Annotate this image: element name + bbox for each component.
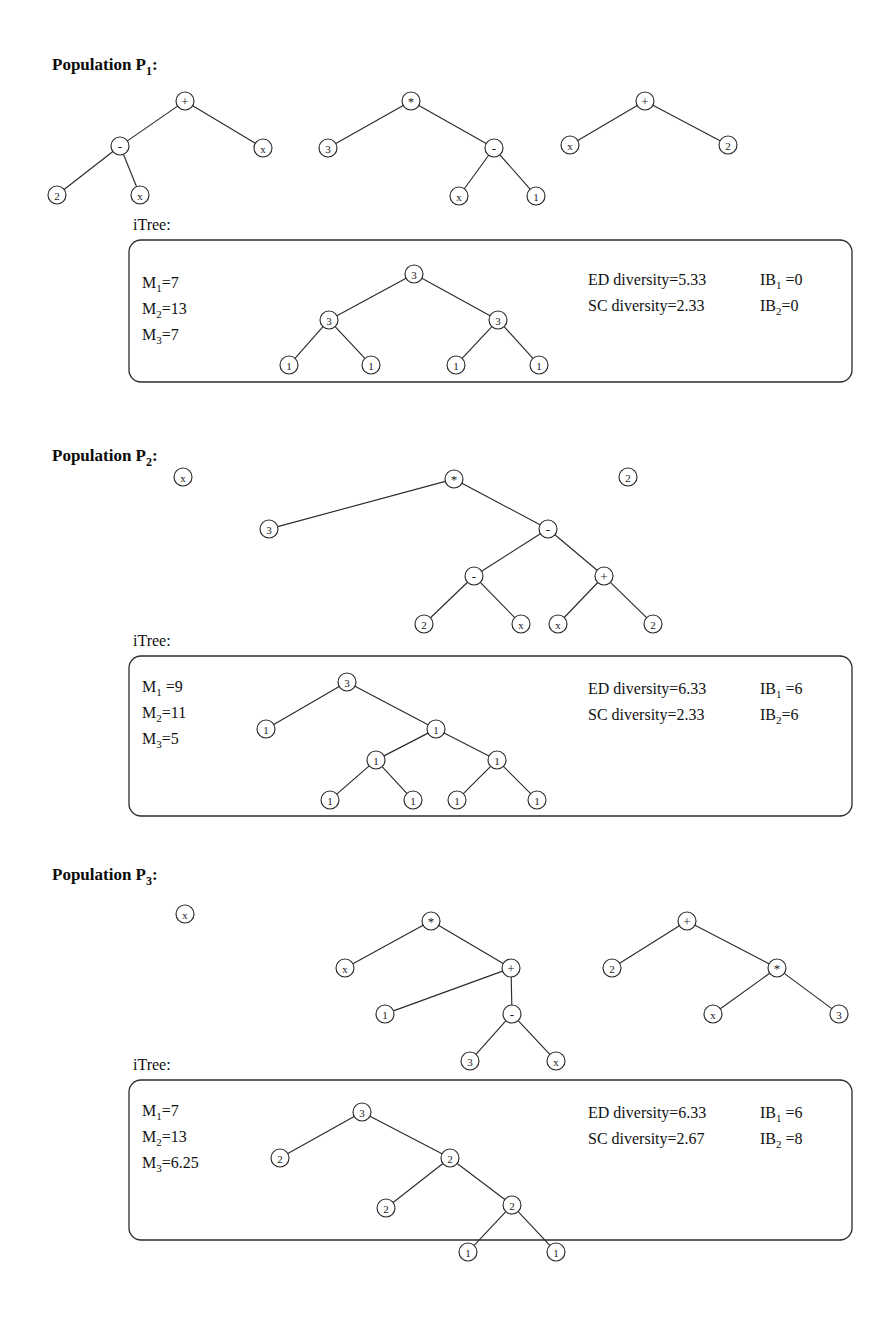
tree-node: 2 <box>441 1149 459 1167</box>
node-label: - <box>492 141 496 156</box>
tree-node: 3 <box>260 520 278 538</box>
p1-metric-m1: M1=7 <box>142 274 179 294</box>
tree-node: x <box>704 1005 722 1023</box>
tree-edge <box>784 973 832 1008</box>
figure-root: Population P1:+-x2x*3-x1+x2iTree:M1=7M2=… <box>0 0 896 1333</box>
tree-node: x <box>547 1052 565 1070</box>
node-label: 3 <box>836 1009 842 1021</box>
tree-edge <box>504 327 533 359</box>
p2-metric-ib2: IB2=6 <box>760 706 799 726</box>
tree-node: 3 <box>405 265 423 283</box>
tree-node: 2 <box>619 468 637 486</box>
tree-node: 1 <box>530 356 548 374</box>
node-label: x <box>137 190 143 202</box>
tree-edge <box>653 105 720 141</box>
p3-metric-m1: M1=7 <box>142 1102 179 1122</box>
node-label: 2 <box>421 619 427 631</box>
population-p3-program-3: +2*x3 <box>603 912 848 1023</box>
tree-edge <box>384 733 428 756</box>
node-label: 1 <box>263 724 269 736</box>
node-label: 3 <box>326 315 332 327</box>
p2-metric-m1: M1 =9 <box>142 678 183 698</box>
tree-node: 1 <box>447 356 465 374</box>
tree-node: 1 <box>547 1243 565 1261</box>
tree-edge <box>336 105 403 143</box>
node-label: 2 <box>383 1203 389 1215</box>
population-p1-program-3: +x2 <box>561 92 737 154</box>
p2-metric-ib1: IB1 =6 <box>760 680 803 700</box>
tree-node: + <box>502 959 520 977</box>
node-label: * <box>451 472 458 487</box>
p3-metric-ed-diversity: ED diversity=6.33 <box>588 1104 706 1122</box>
p2-metric-m3: M3=5 <box>142 730 179 750</box>
tree-edge <box>439 926 503 964</box>
tree-edge <box>555 535 597 570</box>
node-label: + <box>181 94 188 109</box>
population-section-p2: Population P2:x*3--+2xx22iTree:M1 =9M2=1… <box>52 446 852 816</box>
node-label: 1 <box>286 360 292 372</box>
itree-box-p2 <box>129 656 852 816</box>
tree-node: + <box>636 92 654 110</box>
node-label: 1 <box>454 795 460 807</box>
tree-edge <box>476 1021 506 1055</box>
itree-caption-p3: iTree: <box>133 1056 171 1073</box>
p2-metric-m2: M2=11 <box>142 704 186 724</box>
node-label: - <box>472 569 476 584</box>
population-p1-program-1: +-x2x <box>48 92 272 204</box>
node-label: * <box>774 961 781 976</box>
node-label: 1 <box>410 795 416 807</box>
tree-edge <box>422 278 490 315</box>
node-label: x <box>553 1056 559 1068</box>
tree-node: 1 <box>257 720 275 738</box>
tree-edge <box>464 155 488 188</box>
tree-edge <box>123 154 136 186</box>
node-label: 1 <box>553 1247 559 1259</box>
p1-metric-m3: M3=7 <box>142 326 179 346</box>
tree-node: * <box>445 470 463 488</box>
population-p2-program-2: *3--+2xx2 <box>260 470 662 633</box>
node-label: 3 <box>467 1056 473 1068</box>
itree-tree-p3: 3222211 <box>271 1103 565 1261</box>
tree-node: 1 <box>527 187 545 205</box>
tree-edge <box>274 687 339 725</box>
node-label: 1 <box>536 360 542 372</box>
itree-caption-p1: iTree: <box>133 216 171 233</box>
node-label: * <box>428 914 435 929</box>
tree-node: 2 <box>271 1149 289 1167</box>
population-p3-program-1: x <box>176 905 194 923</box>
p3-metric-sc-diversity: SC diversity=2.67 <box>588 1130 705 1148</box>
population-section-p1: Population P1:+-x2x*3-x1+x2iTree:M1=7M2=… <box>48 55 852 382</box>
tree-node: 2 <box>503 1196 521 1214</box>
tree-node: 1 <box>448 791 466 809</box>
node-label: 1 <box>465 1247 471 1259</box>
population-p3-program-2: *x+1-3x <box>336 912 565 1070</box>
tree-edge <box>393 971 502 1011</box>
tree-edge <box>419 105 486 143</box>
tree-edge <box>335 327 365 359</box>
node-label: x <box>567 140 573 152</box>
node-label: 3 <box>344 677 350 689</box>
tree-edge <box>370 1116 442 1154</box>
tree-edge <box>518 1021 550 1055</box>
itree-box-p3 <box>129 1080 852 1240</box>
node-label: 2 <box>54 190 60 202</box>
node-label: + <box>507 961 514 976</box>
tree-node: - <box>485 139 503 157</box>
tree-node: x <box>131 186 149 204</box>
tree-node: 1 <box>280 356 298 374</box>
tree-edge <box>337 278 406 315</box>
tree-node: - <box>503 1005 521 1023</box>
node-label: 2 <box>625 472 631 484</box>
node-label: 3 <box>411 269 417 281</box>
tree-edge <box>193 106 256 144</box>
tree-node: * <box>422 912 440 930</box>
tree-node: 2 <box>644 615 662 633</box>
node-label: x <box>180 472 186 484</box>
population-heading-p2: Population P2: <box>52 446 158 469</box>
node-label: - <box>510 1007 514 1022</box>
tree-node: 1 <box>376 1005 394 1023</box>
tree-node: 1 <box>488 751 506 769</box>
tree-node: 2 <box>603 959 621 977</box>
p3-metric-ib1: IB1 =6 <box>760 1104 803 1124</box>
node-label: x <box>518 619 524 631</box>
